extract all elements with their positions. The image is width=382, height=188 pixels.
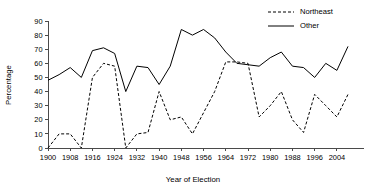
x-tick-label: 1924 — [106, 153, 122, 162]
legend-label-other: Other — [300, 21, 319, 30]
y-tick-label: 60 — [34, 59, 42, 68]
y-tick-label: 10 — [34, 130, 42, 139]
x-tick-label: 1956 — [195, 153, 211, 162]
x-tick-label: 1900 — [40, 153, 56, 162]
chart-legend: NortheastOther — [268, 7, 334, 30]
line-chart-canvas: 0102030405060708090 19001908191619241932… — [0, 0, 382, 188]
x-tick-label: 1940 — [151, 153, 167, 162]
legend-label-northeast: Northeast — [300, 7, 334, 16]
y-tick-label: 90 — [34, 17, 42, 26]
y-axis: 0102030405060708090 — [34, 17, 48, 153]
x-tick-label: 1948 — [173, 153, 189, 162]
y-axis-title: Percentage — [4, 65, 13, 105]
y-tick-label: 40 — [34, 87, 42, 96]
y-tick-label: 0 — [38, 144, 42, 153]
x-tick-label: 1932 — [129, 153, 145, 162]
y-tick-label: 30 — [34, 101, 42, 110]
x-tick-label: 2004 — [329, 153, 345, 162]
x-tick-label: 1996 — [306, 153, 322, 162]
x-tick-label: 1908 — [62, 153, 78, 162]
x-tick-label: 1988 — [284, 153, 300, 162]
x-tick-label: 1916 — [84, 153, 100, 162]
x-tick-label: 1980 — [262, 153, 278, 162]
y-tick-label: 70 — [34, 45, 42, 54]
y-tick-label: 50 — [34, 73, 42, 82]
y-tick-label: 20 — [34, 115, 42, 124]
x-tick-label: 1964 — [218, 153, 234, 162]
x-tick-label: 1972 — [240, 153, 256, 162]
series-lines — [48, 29, 348, 148]
x-axis: 1900190819161924193219401948195619641972… — [40, 148, 364, 162]
series-line-other — [48, 29, 348, 91]
chart-figure: 0102030405060708090 19001908191619241932… — [0, 0, 382, 188]
series-line-northeast — [48, 62, 348, 148]
x-axis-title: Year of Election — [166, 175, 220, 184]
y-tick-label: 80 — [34, 31, 42, 40]
